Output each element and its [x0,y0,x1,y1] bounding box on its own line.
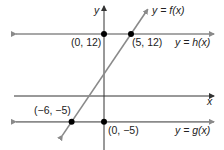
f-line [62,9,147,135]
f-line-label: y = f(x) [151,4,184,16]
point-label-neg6-neg5: (−6, −5) [34,104,71,116]
point-marker [101,119,107,125]
y-axis-label: y [93,4,100,16]
point-label-0-12: (0, 12) [71,36,101,48]
point-label-5-12: (5, 12) [132,36,162,48]
point-marker [101,31,107,37]
g-line-label: y = g(x) [174,124,210,136]
function-graph: y x y = f(x) y = h(x) y = g(x) (0, 12) (… [0,0,224,150]
point-label-0-neg5: (0, −5) [108,124,139,136]
h-line-label: y = h(x) [174,36,210,48]
point-marker [69,119,75,125]
x-axis-label: x [206,95,213,107]
